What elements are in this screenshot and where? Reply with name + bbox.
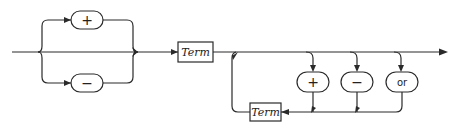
op-plus-label: + — [307, 74, 319, 90]
drop-or — [394, 52, 401, 66]
arrow-icon — [310, 65, 316, 72]
branch-plus-in — [38, 20, 71, 52]
op-or-node: or — [386, 72, 418, 92]
branch-minus-in — [38, 52, 71, 83]
op-minus-label: − — [351, 74, 363, 90]
first-term-node: Term — [178, 42, 213, 62]
op-plus-node: + — [297, 72, 329, 92]
arrow-icon — [398, 65, 404, 72]
loop-back-line — [232, 52, 250, 112]
drop-minus — [350, 52, 357, 66]
arrow-icon — [64, 80, 71, 86]
first-term-label: Term — [181, 46, 210, 59]
arrow-icon — [281, 109, 289, 115]
arrow-icon — [64, 17, 71, 23]
sign-plus-node: + — [71, 11, 103, 29]
loop-term-node: Term — [250, 103, 281, 121]
syntax-diagram: + − Term + − or Term — [0, 0, 460, 128]
drop-plus — [306, 52, 313, 66]
op-or-label: or — [397, 77, 408, 88]
return-bus — [281, 92, 402, 112]
arrow-icon — [171, 49, 178, 55]
loop-term-label: Term — [251, 106, 280, 119]
sign-minus-node: − — [71, 74, 103, 92]
op-minus-node: − — [341, 72, 373, 92]
sign-minus-label: − — [81, 75, 93, 91]
branch-plus-out — [103, 20, 138, 52]
exit-arrow-icon — [439, 49, 448, 56]
arrow-icon — [354, 65, 360, 72]
branch-minus-out — [103, 52, 138, 83]
sign-plus-label: + — [81, 12, 93, 28]
